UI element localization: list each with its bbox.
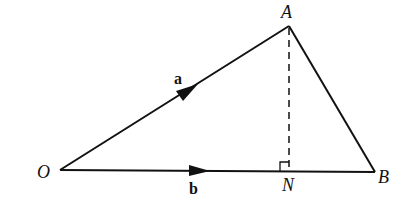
- vector-b-line: [60, 170, 375, 172]
- label-vector-a: a: [174, 70, 182, 87]
- label-o: O: [37, 162, 50, 182]
- vector-a-line: [60, 26, 289, 170]
- label-vector-b: b: [189, 180, 198, 197]
- segment-ab: [289, 26, 375, 172]
- right-angle-marker: [280, 162, 289, 171]
- diagram-canvas: O A N B a b: [0, 0, 419, 207]
- vector-b-arrowhead: [189, 165, 210, 176]
- label-a-point: A: [280, 2, 293, 22]
- label-b-point: B: [378, 167, 389, 187]
- vector-diagram: O A N B a b: [0, 0, 419, 207]
- label-n: N: [281, 175, 295, 195]
